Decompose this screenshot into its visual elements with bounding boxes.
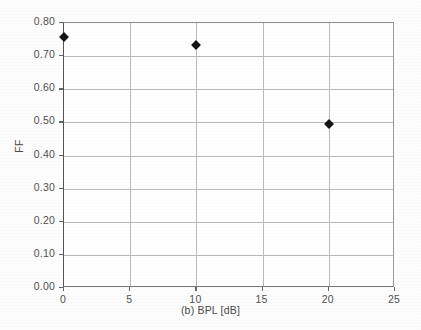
x-tick-label: 5	[114, 293, 144, 305]
chart-figure: FF (b) BPL [dB] 0.000.100.200.300.400.50…	[0, 0, 421, 330]
y-gridline	[64, 89, 393, 90]
x-tick-label: 10	[180, 293, 210, 305]
data-point-marker	[59, 32, 69, 42]
y-gridline	[64, 56, 393, 57]
x-tick-mark	[63, 287, 64, 291]
y-tick-label: 0.50	[9, 114, 55, 126]
y-tick-label: 0.20	[9, 214, 55, 226]
x-tick-mark	[394, 287, 395, 291]
y-gridline	[64, 189, 393, 190]
y-tick-label: 0.70	[9, 48, 55, 60]
data-point-marker	[191, 40, 201, 50]
plot-area	[63, 22, 394, 287]
y-gridline	[64, 122, 393, 123]
x-gridline	[329, 23, 330, 286]
y-tick-label: 0.30	[9, 181, 55, 193]
x-tick-mark	[262, 287, 263, 291]
y-tick-label: 0.40	[9, 148, 55, 160]
data-point-marker	[324, 119, 334, 129]
y-gridline	[64, 222, 393, 223]
y-tick-mark	[59, 287, 63, 288]
x-tick-mark	[129, 287, 130, 291]
x-tick-label: 25	[379, 293, 409, 305]
y-tick-label: 0.60	[9, 81, 55, 93]
y-axis-title: FF	[13, 129, 25, 163]
x-tick-label: 20	[313, 293, 343, 305]
y-tick-label: 0.00	[9, 280, 55, 292]
x-gridline	[130, 23, 131, 286]
x-gridline	[263, 23, 264, 286]
y-tick-label: 0.10	[9, 247, 55, 259]
x-tick-mark	[195, 287, 196, 291]
x-axis-title: (b) BPL [dB]	[0, 304, 421, 316]
y-tick-label: 0.80	[9, 15, 55, 27]
y-gridline	[64, 255, 393, 256]
y-gridline	[64, 156, 393, 157]
x-tick-mark	[328, 287, 329, 291]
x-tick-label: 15	[247, 293, 277, 305]
x-tick-label: 0	[48, 293, 78, 305]
x-gridline	[196, 23, 197, 286]
